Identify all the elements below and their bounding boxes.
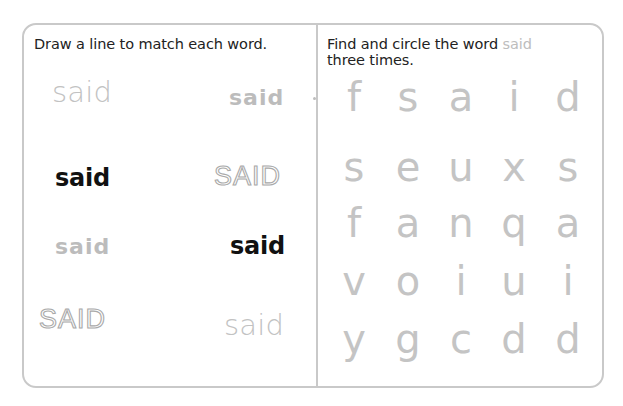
circle-instruction-suffix: three times. — [327, 52, 414, 68]
panel-divider — [316, 23, 318, 388]
grid-letter[interactable]: e — [383, 147, 433, 187]
grid-letter[interactable]: i — [543, 261, 593, 301]
grid-letter[interactable]: u — [489, 261, 539, 301]
grid-letter[interactable]: f — [329, 203, 379, 243]
match-instruction: Draw a line to match each word. — [34, 36, 267, 52]
grid-letter[interactable]: a — [383, 203, 433, 243]
circle-instruction-target-word: said — [503, 36, 532, 52]
match-word-right-1[interactable]: said — [229, 87, 284, 109]
grid-letter[interactable]: u — [436, 147, 486, 187]
grid-letter[interactable]: i — [489, 77, 539, 117]
circle-instruction: Find and circle the word said three time… — [327, 36, 597, 68]
grid-letter[interactable]: v — [329, 261, 379, 301]
grid-letter[interactable]: x — [489, 147, 539, 187]
match-word-right-3[interactable]: said — [230, 234, 285, 258]
worksheet-frame: Draw a line to match each word. said sai… — [22, 23, 604, 388]
match-word-left-4[interactable]: SAID — [39, 306, 106, 333]
grid-letter[interactable]: n — [436, 203, 486, 243]
grid-letter[interactable]: s — [543, 147, 593, 187]
grid-letter[interactable]: c — [436, 319, 486, 359]
letter-grid: f s a i d s e u x s f a n q a v o i u i … — [329, 77, 599, 377]
grid-letter[interactable]: y — [329, 319, 379, 359]
grid-letter[interactable]: g — [383, 319, 433, 359]
circle-instruction-prefix: Find and circle the word — [327, 36, 503, 52]
grid-letter[interactable]: s — [329, 147, 379, 187]
grid-letter[interactable]: d — [543, 319, 593, 359]
grid-letter[interactable]: a — [543, 203, 593, 243]
grid-letter[interactable]: o — [383, 261, 433, 301]
match-word-left-2[interactable]: said — [55, 166, 110, 190]
grid-letter[interactable]: d — [489, 319, 539, 359]
match-word-right-4[interactable]: said — [224, 311, 284, 340]
grid-letter[interactable]: q — [489, 203, 539, 243]
grid-letter[interactable]: f — [329, 77, 379, 117]
grid-letter[interactable]: i — [436, 261, 486, 301]
grid-letter[interactable]: a — [436, 77, 486, 117]
match-word-left-1[interactable]: said — [52, 78, 112, 107]
match-word-left-3[interactable]: said — [55, 236, 110, 258]
grid-letter[interactable]: s — [383, 77, 433, 117]
grid-letter[interactable]: d — [543, 77, 593, 117]
match-word-right-2[interactable]: SAID — [214, 163, 281, 190]
